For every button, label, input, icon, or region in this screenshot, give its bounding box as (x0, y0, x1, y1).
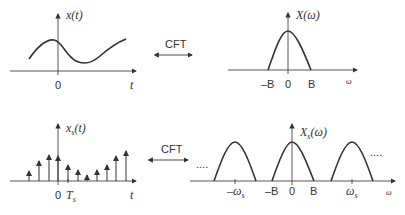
impulse-train (29, 151, 126, 181)
tick-neg-b: –B (265, 185, 278, 197)
cft-transform-top: CFT (158, 38, 192, 55)
omega-axis-label: ω (386, 188, 392, 197)
t-axis-label: t (130, 188, 134, 202)
signal-label: x(t) (65, 8, 83, 22)
t-axis-label: t (130, 78, 134, 92)
spectrum-label: X(ω) (295, 8, 320, 22)
spectrum-curve (268, 31, 311, 70)
time-signal-plot: x(t) 0 t (10, 8, 136, 92)
sampled-signal-label: xs(t) (65, 121, 86, 137)
sampled-spectrum-plot: Xs(ω) .... .... –ωs –B 0 B ωs ω (190, 124, 395, 200)
tick-b: B (308, 78, 315, 90)
sample-period-label: Ts (66, 188, 76, 204)
origin-label: 0 (55, 189, 61, 201)
spectrum-replica-center (272, 142, 314, 181)
tick-zero: 0 (285, 78, 291, 90)
cft-transform-bottom: CFT (152, 143, 188, 160)
sampled-spectrum-label: Xs(ω) (299, 125, 327, 141)
spectrum-replica-left (214, 142, 256, 181)
sampled-signal-plot: xs(t) 0 Ts t (10, 121, 136, 204)
spectrum-replica-right (331, 142, 373, 181)
cft-label-top: CFT (165, 38, 187, 50)
signal-curve (29, 39, 126, 63)
sampling-diagram: x(t) 0 t CFT X(ω) –B 0 B ω (0, 0, 405, 215)
ellipsis-right: .... (370, 146, 382, 158)
tick-neg-ws: –ωs (226, 184, 245, 200)
cft-label-bottom: CFT (161, 143, 183, 155)
tick-ws: ωs (346, 184, 358, 200)
spectrum-plot: X(ω) –B 0 B ω (228, 8, 357, 90)
tick-neg-b: –B (261, 78, 274, 90)
tick-zero: 0 (289, 185, 295, 197)
ellipsis-left: .... (196, 158, 208, 170)
origin-label: 0 (55, 79, 61, 91)
tick-b: B (310, 185, 317, 197)
omega-axis-label: ω (346, 77, 352, 86)
